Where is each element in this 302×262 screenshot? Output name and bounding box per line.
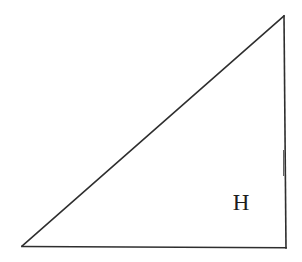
height-label: H bbox=[233, 190, 250, 215]
figure-canvas: H bbox=[0, 0, 302, 262]
triangle-figure: H bbox=[0, 0, 302, 262]
